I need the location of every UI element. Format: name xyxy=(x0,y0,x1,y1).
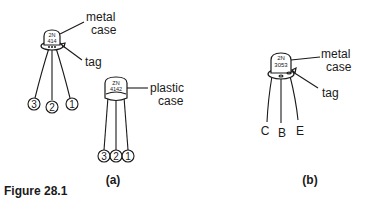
metal-case-leader xyxy=(60,22,84,34)
figure-diagram: 2N 414 metal case tag 3 2 1 ZN 4142 plas… xyxy=(0,0,374,206)
figure-caption: Figure 28.1 xyxy=(4,184,68,198)
metal-transistor-a: 2N 414 metal case tag 3 2 1 xyxy=(28,10,117,113)
metal-case-label-1: metal xyxy=(86,10,115,24)
transistor-b: 2N 3053 metal case tag C B E xyxy=(261,47,352,140)
pin-number-3: 3 xyxy=(101,151,107,162)
pin-label-b: B xyxy=(278,126,286,140)
pin-number-1: 1 xyxy=(69,99,75,110)
lead-3 xyxy=(104,97,108,150)
tag-leader xyxy=(63,46,82,60)
metal-case-leader xyxy=(291,57,320,60)
marking-line2: 3053 xyxy=(274,62,288,68)
tag-leader xyxy=(293,72,318,88)
marking-line1: 2N xyxy=(277,55,285,61)
pin-number-3: 3 xyxy=(31,99,37,110)
metal-case-label-2: case xyxy=(91,23,117,37)
pin-number-1: 1 xyxy=(125,151,131,162)
plastic-transistor-a: ZN 4142 plastic case 3 2 1 xyxy=(98,77,184,162)
tag-label: tag xyxy=(85,55,102,69)
marking-line2: 4142 xyxy=(110,86,122,92)
lead-c xyxy=(267,76,272,122)
metal-case-label-1: metal xyxy=(321,47,350,61)
panel-a-label: (a) xyxy=(106,173,121,187)
lead-1 xyxy=(56,48,70,98)
pin-number-2: 2 xyxy=(49,102,55,113)
pin-label-c: C xyxy=(261,124,270,138)
lead-e xyxy=(290,76,298,120)
tag-label: tag xyxy=(322,86,339,100)
lead-3 xyxy=(35,48,49,98)
metal-case-label-2: case xyxy=(326,60,352,74)
lead-1 xyxy=(124,97,128,150)
marking-line2: 414 xyxy=(47,38,56,44)
pin-number-2: 2 xyxy=(113,151,119,162)
plastic-case-label-1: plastic xyxy=(150,81,184,95)
pin-label-e: E xyxy=(296,124,304,138)
panel-b-label: (b) xyxy=(302,173,317,187)
plastic-case-label-2: case xyxy=(158,94,184,108)
